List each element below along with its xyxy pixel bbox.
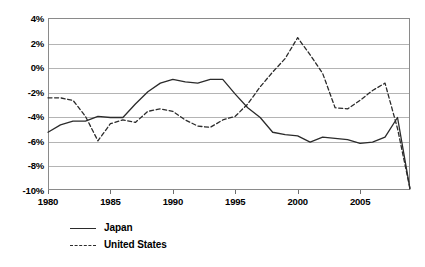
legend-swatch-solid-icon [70,223,96,233]
y-axis-tick-label: -2% [0,86,44,97]
y-axis-tick-label: 0% [0,62,44,73]
y-axis-tick-label: 2% [0,37,44,48]
gridline [49,68,409,69]
y-axis-tick-label: -6% [0,135,44,146]
gridline [49,117,409,118]
gridline [49,44,409,45]
x-axis-tick-label: 2000 [278,196,318,207]
legend-item-japan: Japan [70,219,167,236]
legend-item-united-states: United States [70,236,167,253]
x-axis-tick-label: 1995 [215,196,255,207]
gridline [49,142,409,143]
x-axis-tick-mark [110,190,111,194]
y-axis-tick-label: -8% [0,160,44,171]
x-axis-tick-label: 1990 [153,196,193,207]
x-axis-tick-label: 1985 [90,196,130,207]
plot-area [48,18,410,190]
legend-label-japan: Japan [104,222,132,233]
x-axis-tick-label: 1980 [28,196,68,207]
x-axis-tick-mark [360,190,361,194]
gridline [49,166,409,167]
gridline [49,93,409,94]
x-axis-tick-label: 2005 [340,196,380,207]
y-axis-tick-label: 4% [0,13,44,24]
x-axis-tick-mark [173,190,174,194]
legend-swatch-dashed-icon [70,240,96,250]
legend-label-united-states: United States [104,239,167,250]
x-axis-tick-mark [235,190,236,194]
y-axis-tick-label: -4% [0,111,44,122]
x-axis-tick-mark [298,190,299,194]
y-axis-tick-label: -10% [0,185,44,196]
line-chart: 4%2%0%-2%-4%-6%-8%-10% 19801985199019952… [0,0,425,267]
x-axis-tick-mark [48,190,49,194]
chart-legend: Japan United States [70,219,167,253]
